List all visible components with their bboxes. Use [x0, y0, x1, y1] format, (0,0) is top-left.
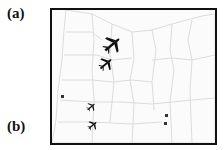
plane-medium-icon: [98, 55, 115, 76]
panel-label-a: (a): [7, 5, 25, 22]
panel-label-b: (b): [7, 118, 25, 135]
plane-small-2-icon: [87, 116, 99, 135]
marker-east-2: [164, 122, 167, 125]
plane-small-1-icon: [86, 97, 97, 116]
marker-east-1: [165, 114, 168, 117]
oregon-county-map: [52, 10, 215, 143]
marker-west: [61, 95, 64, 98]
map-frame: [50, 8, 217, 145]
